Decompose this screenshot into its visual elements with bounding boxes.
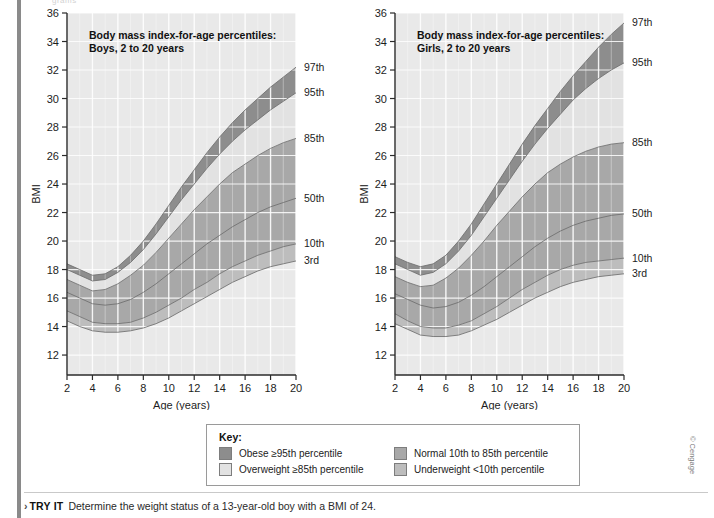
legend-item-obese: Obese ≥95th percentile: [219, 447, 394, 460]
svg-text:20: 20: [375, 235, 387, 247]
svg-text:3rd: 3rd: [632, 267, 647, 279]
svg-text:30: 30: [375, 93, 387, 105]
legend-swatch-overweight: [219, 463, 232, 476]
svg-text:36: 36: [375, 7, 387, 19]
legend-swatch-obese: [219, 447, 232, 460]
svg-text:Age (years): Age (years): [153, 399, 210, 410]
credit-text: © Cengage: [688, 436, 697, 474]
svg-text:32: 32: [47, 64, 59, 76]
chart-boys-svg: 1214161820222426283032343624681012141618…: [28, 0, 358, 410]
svg-text:3rd: 3rd: [304, 254, 319, 266]
svg-text:32: 32: [375, 64, 387, 76]
legend-key: Key: Obese ≥95th percentile Normal 10th …: [206, 424, 580, 486]
svg-text:20: 20: [290, 382, 302, 394]
svg-text:18: 18: [264, 382, 276, 394]
svg-text:95th: 95th: [304, 86, 325, 98]
legend-label-overweight: Overweight ≥85th percentile: [239, 464, 363, 475]
svg-text:95th: 95th: [632, 56, 653, 68]
svg-text:12: 12: [47, 349, 59, 361]
svg-text:24: 24: [47, 178, 59, 190]
svg-text:20: 20: [618, 382, 630, 394]
svg-text:12: 12: [516, 382, 528, 394]
svg-text:16: 16: [375, 292, 387, 304]
legend-label-obese: Obese ≥95th percentile: [239, 448, 342, 459]
svg-text:24: 24: [375, 178, 387, 190]
svg-text:85th: 85th: [304, 132, 325, 144]
legend-item-normal: Normal 10th to 85th percentile: [394, 447, 569, 460]
svg-text:8: 8: [140, 382, 146, 394]
svg-text:12: 12: [188, 382, 200, 394]
svg-text:10th: 10th: [632, 252, 653, 264]
svg-text:2: 2: [64, 382, 70, 394]
section-divider: [24, 492, 708, 493]
svg-text:97th: 97th: [632, 16, 653, 28]
svg-text:34: 34: [47, 36, 59, 48]
legend-swatch-underweight: [394, 463, 407, 476]
page-margin-rule: [17, 0, 21, 518]
svg-text:26: 26: [47, 150, 59, 162]
svg-text:BMI: BMI: [30, 184, 42, 204]
svg-text:28: 28: [47, 121, 59, 133]
try-it-block: ›TRY ITDetermine the weight status of a …: [24, 500, 376, 512]
try-it-text: Determine the weight status of a 13-year…: [68, 500, 376, 512]
svg-text:18: 18: [375, 264, 387, 276]
svg-text:34: 34: [375, 36, 387, 48]
svg-text:14: 14: [375, 321, 387, 333]
svg-text:Body mass index-for-age percen: Body mass index-for-age percentiles:: [417, 29, 604, 41]
svg-text:97th: 97th: [304, 61, 325, 73]
svg-text:16: 16: [47, 292, 59, 304]
legend-swatch-normal: [394, 447, 407, 460]
svg-text:50th: 50th: [632, 207, 653, 219]
svg-text:50th: 50th: [304, 192, 325, 204]
svg-text:6: 6: [115, 382, 121, 394]
svg-text:36: 36: [47, 7, 59, 19]
svg-text:22: 22: [375, 207, 387, 219]
legend-label-underweight: Underweight <10th percentile: [414, 464, 544, 475]
svg-text:Body mass index-for-age percen: Body mass index-for-age percentiles:: [89, 29, 276, 41]
svg-text:14: 14: [214, 382, 226, 394]
chart-boys: 1214161820222426283032343624681012141618…: [28, 0, 358, 410]
svg-text:18: 18: [47, 264, 59, 276]
svg-text:20: 20: [47, 235, 59, 247]
legend-items: Obese ≥95th percentile Normal 10th to 85…: [219, 447, 569, 476]
svg-text:10: 10: [163, 382, 175, 394]
svg-text:85th: 85th: [632, 136, 653, 148]
svg-text:2: 2: [392, 382, 398, 394]
svg-text:6: 6: [443, 382, 449, 394]
svg-text:16: 16: [567, 382, 579, 394]
legend-item-overweight: Overweight ≥85th percentile: [219, 463, 394, 476]
svg-text:4: 4: [89, 382, 95, 394]
svg-text:26: 26: [375, 150, 387, 162]
chart-girls: 1214161820222426283032343624681012141618…: [356, 0, 686, 410]
svg-text:14: 14: [47, 321, 59, 333]
legend-title: Key:: [219, 431, 569, 443]
svg-text:28: 28: [375, 121, 387, 133]
svg-text:12: 12: [375, 349, 387, 361]
legend-item-underweight: Underweight <10th percentile: [394, 463, 569, 476]
svg-text:10th: 10th: [304, 237, 325, 249]
svg-text:14: 14: [542, 382, 554, 394]
svg-text:30: 30: [47, 93, 59, 105]
svg-text:22: 22: [47, 207, 59, 219]
svg-text:4: 4: [417, 382, 423, 394]
svg-text:18: 18: [592, 382, 604, 394]
svg-text:8: 8: [468, 382, 474, 394]
svg-text:Girls, 2 to 20 years: Girls, 2 to 20 years: [417, 42, 511, 54]
chevron-right-icon: ›: [24, 500, 28, 512]
svg-text:Age (years): Age (years): [481, 399, 538, 410]
chart-girls-svg: 1214161820222426283032343624681012141618…: [356, 0, 686, 410]
svg-text:10: 10: [491, 382, 503, 394]
legend-label-normal: Normal 10th to 85th percentile: [414, 448, 548, 459]
svg-text:BMI: BMI: [358, 184, 370, 204]
svg-text:Boys, 2 to 20 years: Boys, 2 to 20 years: [89, 42, 184, 54]
svg-text:16: 16: [239, 382, 251, 394]
try-it-label: TRY IT: [30, 500, 64, 512]
